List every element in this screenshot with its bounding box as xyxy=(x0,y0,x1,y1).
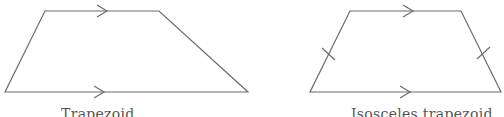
isosceles-trapezoid-figure xyxy=(310,5,501,98)
congruent-tick-icon xyxy=(322,48,335,60)
diagram-canvas xyxy=(0,0,504,117)
isosceles-trapezoid-shape xyxy=(310,11,501,92)
trapezoid-label: Trapezoid xyxy=(61,106,135,117)
isosceles-trapezoid-label: Isosceles trapezoid xyxy=(351,106,493,117)
trapezoid-shape xyxy=(5,11,248,92)
trapezoid-figure xyxy=(5,5,248,98)
